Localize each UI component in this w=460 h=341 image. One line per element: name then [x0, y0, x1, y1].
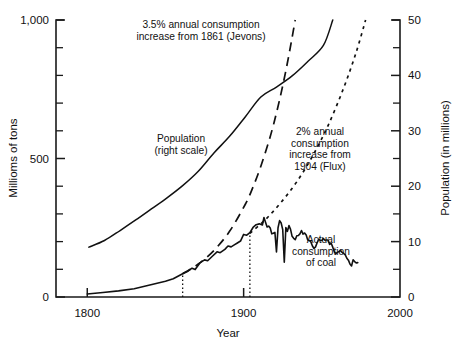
left-axis-ticks	[56, 20, 65, 297]
right-tick-label: 50	[408, 14, 421, 26]
flux-annotation: 2% annualconsumptionincrease from1904 (F…	[289, 126, 351, 172]
annotation-line: increase from 1861 (Jevons)	[136, 31, 265, 42]
left-axis-ticklabels: 05001,000	[20, 14, 49, 303]
chart-canvas: 05001,000 01020304050 180019002000 3.5% …	[0, 0, 460, 341]
annotation-line: Actual	[307, 234, 335, 245]
right-tick-label: 0	[408, 291, 414, 303]
chart-figure: 05001,000 01020304050 180019002000 3.5% …	[0, 0, 460, 341]
right-axis-title: Population (in millions)	[439, 100, 451, 216]
right-axis-ticks	[391, 20, 400, 297]
right-tick-label: 10	[408, 236, 421, 248]
coal-annotation: Actualconsumptionof coal	[292, 234, 350, 268]
right-tick-label: 40	[408, 69, 421, 81]
x-axis-ticklabels: 180019002000	[74, 307, 412, 319]
annotation-line: Population	[157, 133, 205, 144]
annotation-line: consumption	[292, 246, 350, 257]
x-tick-label: 1900	[231, 307, 257, 319]
annotation-line: 1904 (Flux)	[294, 161, 346, 172]
x-tick-label: 1800	[74, 307, 100, 319]
jevons-annotation: 3.5% annual consumptionincrease from 186…	[136, 19, 265, 42]
right-axis-ticklabels: 01020304050	[408, 14, 421, 303]
right-tick-label: 20	[408, 180, 421, 192]
annotation-line: consumption	[291, 138, 349, 149]
left-tick-label: 500	[30, 153, 49, 165]
left-axis-title: Millioms of tons	[7, 118, 19, 197]
annotation-line: of coal	[306, 257, 336, 268]
left-tick-label: 1,000	[20, 14, 49, 26]
annotation-line: increase from	[289, 149, 351, 160]
annotation-line: 2% annual	[296, 126, 344, 137]
annotation-line: (right scale)	[154, 145, 207, 156]
right-tick-label: 30	[408, 125, 421, 137]
population-annotation: Population(right scale)	[154, 133, 207, 156]
x-axis-title: Year	[216, 327, 239, 339]
left-tick-label: 0	[43, 291, 49, 303]
x-tick-label: 2000	[387, 307, 413, 319]
annotation-layer: 3.5% annual consumptionincrease from 186…	[136, 19, 350, 268]
annotation-line: 3.5% annual consumption	[142, 19, 259, 30]
